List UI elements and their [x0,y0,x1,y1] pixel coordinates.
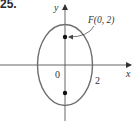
focus-pointer-arrow [69,26,94,37]
ellipse-diagram: y x 0 2 F(0, 2) [0,0,137,121]
ellipse-figure: 25. y x 0 2 F(0, 2) [0,0,137,121]
x-axis-label: x [125,68,131,79]
problem-number: 25. [0,0,17,11]
x-intercept-label: 2 [95,75,100,86]
y-axis-label: y [53,2,59,13]
focus-point-lower [63,91,67,95]
focus-point-upper [63,35,67,39]
focus-label: F(0, 2) [87,15,114,26]
origin-label: 0 [55,69,60,80]
